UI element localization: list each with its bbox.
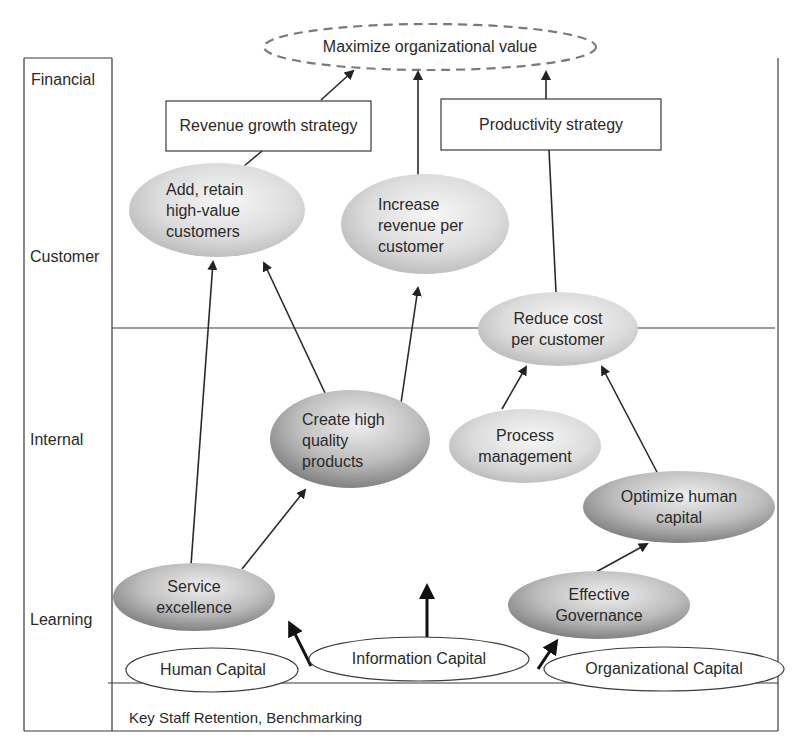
service-excellence-label: Service excellence (116, 574, 272, 620)
effective-governance-label: Effective Governance (510, 582, 688, 628)
perspective-customer: Customer (30, 247, 99, 267)
arrow-service-to-add (191, 262, 213, 565)
line-reduce-to-productivity (549, 150, 556, 292)
arrow-governance-to-optimize (596, 544, 647, 572)
optimize-human-label: Optimize human capital (585, 484, 773, 530)
add-retain-label: Add, retain high-value customers (166, 170, 276, 250)
arrow-optimize-to-reduce (602, 367, 658, 474)
strategy-map-diagram (0, 0, 805, 756)
organizational-capital-label: Organizational Capital (546, 657, 782, 681)
create-quality-label: Create high quality products (302, 400, 412, 480)
arrow-service-to-create (242, 490, 305, 569)
arrow-process-to-reduce (502, 367, 526, 409)
arrow-create-to-increase (401, 288, 418, 403)
human-capital-label: Human Capital (130, 658, 296, 682)
goal-label: Maximize organizational value (264, 35, 596, 59)
perspective-financial: Financial (31, 70, 95, 90)
footer-note: Key Staff Retention, Benchmarking (129, 708, 362, 728)
reduce-cost-label: Reduce cost per customer (480, 306, 636, 352)
line-add-to-revenue (243, 151, 262, 167)
arrow-revenue-to-goal (321, 71, 353, 100)
process-management-label: Process management (452, 423, 598, 469)
perspective-internal: Internal (30, 430, 83, 450)
increase-revenue-label: Increase revenue per customer (378, 185, 488, 265)
productivity-strategy-label: Productivity strategy (441, 99, 661, 150)
frame (24, 58, 778, 731)
perspective-learning: Learning (30, 610, 92, 630)
information-capital-label: Information Capital (310, 647, 528, 671)
revenue-growth-strategy-label: Revenue growth strategy (166, 101, 371, 151)
